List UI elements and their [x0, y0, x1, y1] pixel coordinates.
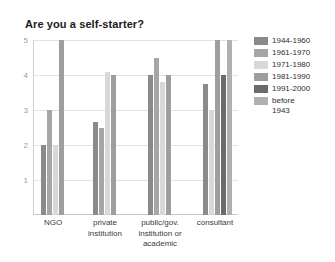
x-axis-category-labels: NGOprivateinstitutionpublic/gov.institut… — [33, 218, 238, 262]
bar — [166, 75, 171, 215]
legend-label: 1944-1960 — [272, 36, 310, 46]
legend-swatch — [254, 85, 268, 93]
legend-label: 1961-1970 — [272, 48, 310, 58]
bar — [148, 75, 153, 215]
y-axis-tick-label: 5 — [24, 36, 28, 45]
bar — [93, 122, 98, 215]
legend-swatch — [254, 49, 268, 57]
bar — [53, 145, 58, 215]
legend-label: 1991-2000 — [272, 84, 310, 94]
chart-container: Are you a self-starter? 12345 NGOprivate… — [0, 0, 335, 262]
legend-label: before1943 — [272, 96, 295, 116]
chart-title: Are you a self-starter? — [25, 18, 144, 30]
x-axis-label: consultant — [179, 218, 251, 229]
bar-group — [203, 40, 232, 215]
bar — [221, 75, 226, 215]
bar-group — [41, 40, 64, 215]
bar — [154, 58, 159, 216]
bar — [105, 72, 110, 216]
y-axis-tick-label: 3 — [24, 106, 28, 115]
bar — [47, 110, 52, 215]
legend-label: 1971-1980 — [272, 60, 310, 70]
legend-item[interactable]: 1944-1960 — [254, 36, 332, 46]
legend-label: 1981-1990 — [272, 72, 310, 82]
legend-item[interactable]: 1961-1970 — [254, 48, 332, 58]
legend-item[interactable]: before1943 — [254, 96, 332, 116]
y-axis-tick-label: 1 — [24, 176, 28, 185]
legend-swatch — [254, 37, 268, 45]
bar-group — [148, 40, 171, 215]
bar-series-group — [33, 40, 238, 215]
y-axis-tick-label: 4 — [24, 71, 28, 80]
bar — [227, 40, 232, 215]
legend-item[interactable]: 1991-2000 — [254, 84, 332, 94]
chart-legend: 1944-19601961-19701971-19801981-19901991… — [254, 36, 332, 118]
legend-item[interactable]: 1971-1980 — [254, 60, 332, 70]
bar — [160, 82, 165, 215]
bar — [111, 75, 116, 215]
plot-area: 12345 — [33, 40, 238, 215]
legend-swatch — [254, 97, 268, 105]
y-axis-tick-label: 2 — [24, 141, 28, 150]
bar — [99, 128, 104, 216]
bar-group — [93, 40, 116, 215]
bar — [41, 145, 46, 215]
bar — [59, 40, 64, 215]
legend-swatch — [254, 61, 268, 69]
legend-swatch — [254, 73, 268, 81]
legend-item[interactable]: 1981-1990 — [254, 72, 332, 82]
bar — [215, 40, 220, 215]
bar — [203, 84, 208, 215]
bar — [209, 110, 214, 215]
